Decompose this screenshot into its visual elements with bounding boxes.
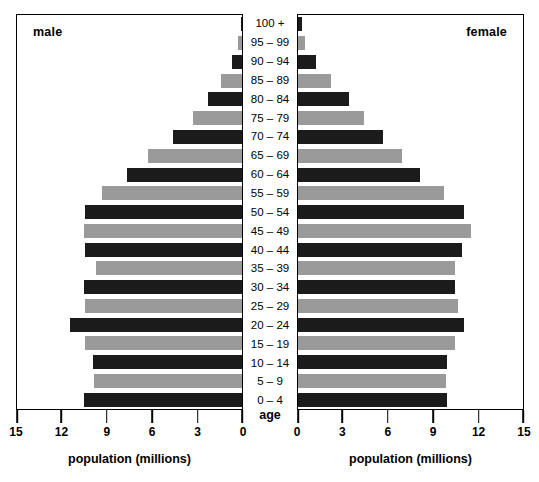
bar-female-45–49 — [298, 224, 471, 238]
bar-female-55–59 — [298, 186, 444, 200]
table-row — [17, 278, 242, 297]
age-group-label: 10 – 14 — [243, 353, 297, 372]
bar-female-60–64 — [298, 168, 420, 182]
axis-tick — [432, 410, 434, 423]
table-row — [17, 90, 242, 109]
axis-tick — [61, 410, 63, 423]
axis-tick — [522, 410, 524, 423]
population-pyramid-chart: male 100 +95 – 9990 – 9485 – 8980 – 8475… — [0, 0, 539, 482]
age-group-label: 25 – 29 — [243, 297, 297, 316]
bar-female-20–24 — [298, 318, 464, 332]
bar-female-90–94 — [298, 55, 316, 69]
age-group-label: 55 – 59 — [243, 184, 297, 203]
age-group-label: 60 – 64 — [243, 165, 297, 184]
table-row — [298, 53, 523, 72]
bar-male-50–54 — [85, 205, 242, 219]
bar-female-80–84 — [298, 92, 349, 106]
table-row — [17, 146, 242, 165]
bar-female-100+ — [298, 17, 302, 31]
bar-female-5–9 — [298, 374, 446, 388]
age-group-label: 100 + — [243, 14, 297, 33]
bar-female-25–29 — [298, 299, 458, 313]
axis-tick-label: 15 — [9, 425, 22, 439]
axis-tick-label: 15 — [517, 425, 530, 439]
age-group-label: 35 – 39 — [243, 259, 297, 278]
table-row — [298, 15, 523, 34]
table-row — [298, 203, 523, 222]
bar-male-15–19 — [85, 336, 242, 350]
age-group-label: 40 – 44 — [243, 240, 297, 259]
axis-tick — [197, 410, 199, 423]
table-row — [17, 128, 242, 147]
bar-female-85–89 — [298, 74, 331, 88]
bar-male-75–79 — [193, 111, 242, 125]
age-group-label: 95 – 99 — [243, 33, 297, 52]
table-row — [298, 353, 523, 372]
table-row — [298, 90, 523, 109]
table-row — [17, 53, 242, 72]
axis-tick-label: 9 — [103, 425, 110, 439]
age-group-label: 5 – 9 — [243, 372, 297, 391]
age-group-label: 50 – 54 — [243, 202, 297, 221]
table-row — [298, 184, 523, 203]
bar-female-35–39 — [298, 261, 455, 275]
table-row — [298, 259, 523, 278]
bar-male-35–39 — [96, 261, 242, 275]
bar-female-0–4 — [298, 393, 447, 407]
age-group-label: 30 – 34 — [243, 278, 297, 297]
female-x-axis-scale: 03691215 — [297, 410, 524, 426]
age-group-label: 65 – 69 — [243, 146, 297, 165]
axis-tick-label: 0 — [240, 425, 247, 439]
table-row — [17, 71, 242, 90]
axis-tick — [297, 410, 299, 423]
bar-male-55–59 — [102, 186, 242, 200]
table-row — [298, 128, 523, 147]
table-row — [298, 71, 523, 90]
bar-male-95–99 — [238, 36, 242, 50]
table-row — [17, 203, 242, 222]
table-row — [298, 165, 523, 184]
table-row — [298, 315, 523, 334]
bar-male-70–74 — [173, 130, 242, 144]
bar-male-65–69 — [148, 149, 242, 163]
female-x-axis-title: population (millions) — [297, 452, 524, 466]
bar-male-40–44 — [85, 243, 242, 257]
table-row — [17, 165, 242, 184]
bar-male-85–89 — [221, 74, 242, 88]
axis-tick-label: 9 — [430, 425, 437, 439]
axis-tick — [16, 410, 18, 423]
table-row — [298, 109, 523, 128]
age-group-label: 15 – 19 — [243, 334, 297, 353]
age-axis: 100 +95 – 9990 – 9485 – 8980 – 8475 – 79… — [243, 14, 297, 410]
bar-male-5–9 — [94, 374, 242, 388]
male-chart-panel: male — [16, 14, 243, 410]
bar-female-15–19 — [298, 336, 455, 350]
table-row — [17, 34, 242, 53]
age-group-label: 80 – 84 — [243, 89, 297, 108]
bar-female-10–14 — [298, 355, 447, 369]
table-row — [17, 259, 242, 278]
table-row — [17, 221, 242, 240]
axis-tick-label: 6 — [149, 425, 156, 439]
bar-female-95–99 — [298, 36, 305, 50]
age-group-label: 0 – 4 — [243, 391, 297, 410]
axis-tick-label: 0 — [294, 425, 301, 439]
axis-tick-label: 3 — [194, 425, 201, 439]
age-group-label: 45 – 49 — [243, 221, 297, 240]
axis-tick — [342, 410, 344, 423]
bar-male-90–94 — [232, 55, 242, 69]
axis-tick — [478, 410, 480, 423]
bar-male-25–29 — [85, 299, 242, 313]
bar-female-30–34 — [298, 280, 455, 294]
table-row — [17, 240, 242, 259]
age-axis-title: age — [243, 408, 297, 422]
bar-female-50–54 — [298, 205, 464, 219]
age-group-label: 85 – 89 — [243, 71, 297, 90]
axis-tick-label: 6 — [384, 425, 391, 439]
age-group-label: 70 – 74 — [243, 127, 297, 146]
male-x-axis-title: population (millions) — [16, 452, 243, 466]
age-group-label: 20 – 24 — [243, 316, 297, 335]
bar-female-65–69 — [298, 149, 402, 163]
table-row — [298, 34, 523, 53]
table-row — [298, 296, 523, 315]
